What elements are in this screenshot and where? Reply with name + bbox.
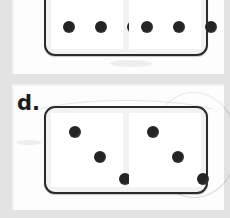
domino-tile-d — [44, 106, 208, 194]
domino-pip — [141, 21, 153, 33]
domino-pip — [147, 126, 159, 138]
domino-pip — [94, 151, 106, 163]
scan-artifact-smudge — [110, 60, 152, 67]
domino-half-left — [51, 0, 123, 49]
item-label-d: d. — [17, 93, 40, 114]
domino-half-right — [129, 113, 201, 187]
domino-pip — [63, 21, 75, 33]
domino-pip — [205, 21, 217, 33]
domino-pip — [95, 21, 107, 33]
domino-half-right — [129, 0, 201, 49]
domino-pip — [172, 151, 184, 163]
scan-artifact-smudge — [16, 140, 42, 145]
panel-edge-shading-left — [12, 84, 15, 210]
domino-pip — [197, 173, 209, 185]
panel-edge-shading-top — [12, 84, 224, 87]
domino-pip — [69, 126, 81, 138]
domino-pip — [173, 21, 185, 33]
domino-half-left — [51, 113, 123, 187]
worksheet-page: d. — [0, 0, 230, 218]
domino-tile-top — [44, 0, 208, 56]
panel-edge-shading-left — [12, 0, 15, 74]
